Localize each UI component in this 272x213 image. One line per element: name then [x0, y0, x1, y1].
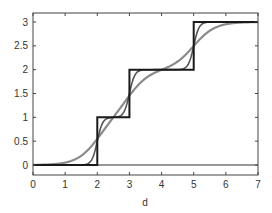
x-tick-label: 0	[30, 179, 36, 190]
plot-lines	[33, 22, 258, 165]
y-tick-label: 2.5	[14, 40, 28, 51]
step-line	[33, 22, 258, 165]
x-tick-label: 5	[191, 179, 197, 190]
plot-frame	[33, 13, 258, 175]
y-tick-label: 3	[22, 17, 28, 28]
x-tick-label: 7	[255, 179, 261, 190]
chart: 01234567 00.511.522.53 d	[0, 0, 272, 213]
y-tick-label: 0.5	[14, 136, 28, 147]
x-tick-label: 2	[95, 179, 101, 190]
x-tick-label: 1	[62, 179, 68, 190]
x-tick-label: 4	[159, 179, 165, 190]
x-tick-label: 3	[127, 179, 133, 190]
y-tick-label: 1.5	[14, 88, 28, 99]
y-tick-label: 1	[22, 112, 28, 123]
x-axis-label: d	[142, 197, 148, 208]
smooth-sigmoid-line	[33, 22, 258, 165]
x-tick-label: 6	[223, 179, 229, 190]
y-tick-label: 0	[22, 160, 28, 171]
steep-sigmoid-line	[33, 22, 258, 165]
y-axis-ticks: 00.511.522.53	[14, 17, 258, 171]
y-tick-label: 2	[22, 64, 28, 75]
